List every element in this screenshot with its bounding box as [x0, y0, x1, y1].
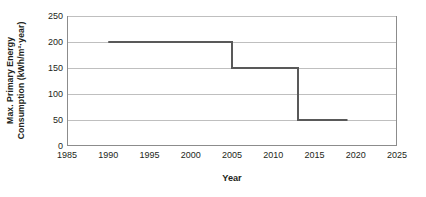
x-tick-label: 2010 [263, 150, 283, 160]
x-axis-title: Year [67, 173, 397, 183]
data-series-line [108, 42, 347, 120]
x-tick-label: 1990 [98, 150, 118, 160]
x-tick-label: 2005 [222, 150, 242, 160]
x-tick-label: 2025 [387, 150, 407, 160]
chart-figure: Max. Primary Energy Consumption (kWh/m²·… [0, 0, 426, 197]
x-tick-label: 2000 [181, 150, 201, 160]
plot-svg [67, 16, 397, 146]
x-tick-label: 2015 [304, 150, 324, 160]
plot-area [67, 16, 397, 146]
x-tick-label: 1995 [139, 150, 159, 160]
x-tick-label: 2020 [346, 150, 366, 160]
x-tick-label: 1985 [57, 150, 77, 160]
